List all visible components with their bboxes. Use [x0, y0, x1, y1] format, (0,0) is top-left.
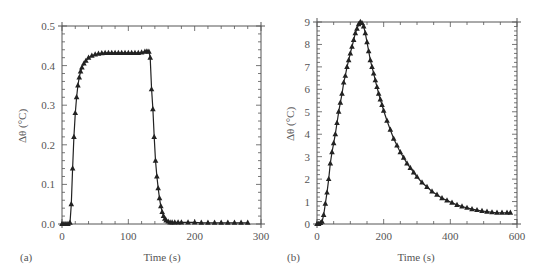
triangle-marker-icon: [364, 39, 370, 44]
panel-label-a: (a): [20, 251, 33, 264]
triangle-marker-icon: [157, 195, 163, 200]
triangle-marker-icon: [371, 70, 377, 75]
y-axis-title-b: Δθ (°C): [284, 107, 297, 141]
triangle-marker-icon: [363, 30, 369, 35]
triangle-marker-icon: [373, 77, 379, 82]
x-tick-label: 200: [375, 230, 392, 242]
y-tick-label: 6: [305, 83, 311, 95]
triangle-marker-icon: [351, 37, 357, 42]
triangle-marker-icon: [354, 26, 360, 31]
triangle-marker-icon: [499, 210, 505, 215]
triangle-marker-icon: [343, 73, 349, 78]
triangle-marker-icon: [338, 100, 344, 105]
x-tick-label: 0: [59, 230, 65, 242]
triangle-marker-icon: [376, 91, 382, 96]
data-line: [317, 22, 510, 224]
triangle-marker-icon: [154, 173, 160, 178]
triangle-marker-icon: [150, 106, 156, 111]
x-axis-label: Time (s): [397, 251, 435, 264]
x-tick-label: 400: [442, 230, 459, 242]
triangle-marker-icon: [76, 74, 82, 79]
y-tick-label: 8: [305, 38, 311, 50]
triangle-marker-icon: [344, 64, 350, 69]
triangle-marker-icon: [147, 54, 153, 59]
y-tick-label: 0.2: [41, 139, 55, 151]
triangle-marker-icon: [384, 118, 390, 123]
panel-label-b: (b): [287, 251, 300, 264]
triangle-marker-icon: [394, 142, 400, 147]
triangle-marker-icon: [341, 79, 347, 84]
y-axis-label: Δθ (°C): [284, 107, 297, 141]
triangle-marker-icon: [346, 57, 352, 62]
triangle-marker-icon: [353, 30, 359, 35]
plot-area-b: 02004006000123456789: [305, 16, 526, 242]
y-axis-title-a: Δθ (°C): [16, 109, 29, 143]
triangle-marker-icon: [331, 140, 337, 145]
triangle-marker-icon: [334, 120, 340, 125]
y-tick-label: 9: [305, 16, 311, 28]
triangle-marker-icon: [388, 127, 394, 132]
triangle-marker-icon: [74, 94, 80, 99]
triangle-marker-icon: [328, 160, 334, 165]
y-tick-label: 0.4: [41, 60, 55, 72]
x-tick-label: 200: [186, 230, 203, 242]
y-tick-label: 0.5: [41, 20, 55, 32]
y-tick-label: 1: [305, 196, 311, 208]
triangle-marker-icon: [368, 57, 374, 62]
y-tick-label: 2: [305, 173, 311, 185]
plot-area-a: 01002003000.00.10.20.30.40.5: [41, 20, 270, 242]
y-tick-label: 0: [305, 218, 311, 230]
y-axis-label: Δθ (°C): [16, 109, 29, 143]
triangle-marker-icon: [71, 134, 77, 139]
triangle-marker-icon: [348, 50, 354, 55]
triangle-marker-icon: [374, 84, 380, 89]
triangle-marker-icon: [70, 165, 76, 170]
y-tick-label: 4: [305, 128, 311, 140]
chart-panel-b: Δθ (°C) Time (s) (b) 0200400600012345678…: [272, 0, 543, 278]
triangle-marker-icon: [158, 203, 164, 208]
triangle-marker-icon: [369, 64, 375, 69]
x-tick-label: 300: [253, 230, 270, 242]
y-tick-label: 0.0: [41, 218, 55, 230]
x-axis-label: Time (s): [143, 251, 181, 264]
triangle-marker-icon: [321, 212, 327, 217]
triangle-marker-icon: [378, 96, 384, 101]
triangle-marker-icon: [326, 176, 332, 181]
y-tick-label: 0.1: [41, 178, 55, 190]
triangle-marker-icon: [398, 149, 404, 154]
y-tick-label: 7: [305, 61, 311, 73]
triangle-marker-icon: [153, 157, 159, 162]
triangle-marker-icon: [366, 48, 372, 53]
triangle-marker-icon: [379, 102, 385, 107]
y-tick-label: 5: [305, 106, 311, 118]
triangle-marker-icon: [349, 43, 355, 48]
triangle-marker-icon: [159, 209, 165, 214]
triangle-marker-icon: [336, 109, 342, 114]
y-tick-label: 3: [305, 151, 311, 163]
triangle-marker-icon: [381, 107, 387, 112]
triangle-marker-icon: [72, 110, 78, 115]
triangle-marker-icon: [329, 149, 335, 154]
triangle-marker-icon: [323, 201, 329, 206]
triangle-marker-icon: [149, 86, 155, 91]
triangle-marker-icon: [151, 134, 157, 139]
triangle-marker-icon: [391, 136, 397, 141]
triangle-marker-icon: [155, 185, 161, 190]
chart-panel-a: Δθ (°C) Time (s) (a) 01002003000.00.10.2…: [0, 0, 272, 278]
triangle-marker-icon: [333, 131, 339, 136]
triangle-marker-icon: [324, 189, 330, 194]
x-tick-label: 0: [314, 230, 320, 242]
triangle-marker-icon: [339, 91, 345, 96]
x-tick-label: 100: [120, 230, 137, 242]
triangle-marker-icon: [75, 82, 81, 87]
x-tick-label: 600: [509, 230, 526, 242]
triangle-marker-icon: [68, 201, 74, 206]
y-tick-label: 0.3: [41, 99, 55, 111]
